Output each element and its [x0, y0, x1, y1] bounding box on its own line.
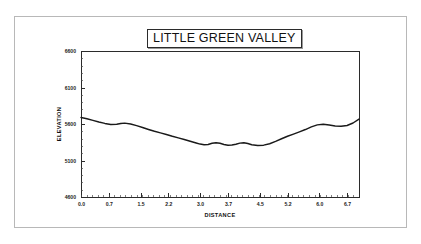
- y-tick-label: 6100: [65, 85, 76, 91]
- line-chart-plot: 460051005600610066000.00.71.52.23.03.74.…: [15, 17, 408, 229]
- y-axis-title: ELEVATION: [56, 107, 62, 141]
- y-tick-label: 5100: [65, 158, 76, 164]
- x-tick-label: 5.2: [284, 201, 291, 207]
- x-tick-label: 3.0: [197, 201, 204, 207]
- x-tick-label: 6.0: [316, 201, 323, 207]
- y-tick-label: 4600: [65, 194, 76, 200]
- figure-outer-frame: LITTLE GREEN VALLEY 46005100560061006600…: [14, 16, 407, 228]
- y-tick-label: 5600: [65, 121, 76, 127]
- y-tick-label: 6600: [65, 48, 76, 54]
- data-series-line: [81, 117, 359, 145]
- x-tick-label: 0.7: [106, 201, 113, 207]
- x-tick-label: 0.0: [78, 201, 85, 207]
- x-tick-label: 4.5: [257, 201, 264, 207]
- x-axis-title: DISTANCE: [205, 212, 236, 218]
- x-tick-label: 2.2: [165, 201, 172, 207]
- x-tick-label: 6.7: [344, 201, 351, 207]
- x-tick-label: 3.7: [225, 201, 232, 207]
- x-tick-label: 1.5: [138, 201, 145, 207]
